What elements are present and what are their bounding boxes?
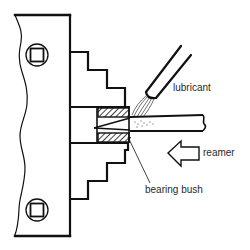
reamer-label: reamer	[203, 148, 235, 158]
bearing-bush-label: bearing bush	[145, 185, 203, 195]
reamer-direction-arrow-icon	[168, 141, 199, 166]
bearing-bush-leader-line	[128, 137, 150, 183]
jaw-lower	[70, 143, 128, 199]
chuck-break-line	[15, 15, 27, 235]
chuck-key-socket-bottom-icon	[26, 199, 48, 221]
lubricant-label: lubricant	[173, 83, 211, 93]
lubricant-spray-dots	[135, 121, 154, 128]
jaw-upper	[70, 52, 125, 107]
lathe-reaming-diagram	[0, 0, 250, 250]
lubricant-stream	[132, 96, 154, 117]
chuck-key-socket-top-icon	[26, 44, 48, 66]
